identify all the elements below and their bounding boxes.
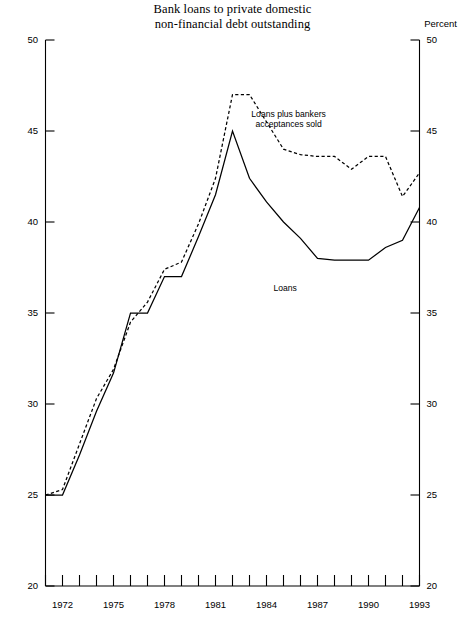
y-axis-label-left-35: 35 <box>16 308 38 318</box>
y-axis-label-left-30: 30 <box>16 399 38 409</box>
axes-group <box>46 40 420 586</box>
x-axis-label-1987: 1987 <box>300 600 336 610</box>
plot-canvas <box>0 0 465 624</box>
y-axis-label-right-30: 30 <box>427 399 449 409</box>
series-annotation-loans-plus-acceptances: Loans plus bankers acceptances sold <box>234 109 344 129</box>
x-axis-label-1993: 1993 <box>402 600 438 610</box>
y-axis-label-right-35: 35 <box>427 308 449 318</box>
x-axis-label-1981: 1981 <box>198 600 234 610</box>
y-axis-label-right-20: 20 <box>427 581 449 591</box>
y-axis-label-right-45: 45 <box>427 126 449 136</box>
series-line-0 <box>46 131 420 495</box>
series-group <box>46 95 420 495</box>
y-axis-label-right-50: 50 <box>427 35 449 45</box>
x-axis-label-1972: 1972 <box>45 600 81 610</box>
y-axis-label-left-40: 40 <box>16 217 38 227</box>
series-line-1 <box>46 95 420 495</box>
y-axis-label-left-45: 45 <box>16 126 38 136</box>
x-axis-label-1978: 1978 <box>147 600 183 610</box>
y-axis-label-left-50: 50 <box>16 35 38 45</box>
series-annotation-loans: Loans <box>245 283 325 293</box>
y-axis-label-left-25: 25 <box>16 490 38 500</box>
chart-root: Bank loans to private domestic non-finan… <box>0 0 465 624</box>
y-axis-label-right-40: 40 <box>427 217 449 227</box>
y-axis-label-left-20: 20 <box>16 581 38 591</box>
x-axis-label-1984: 1984 <box>249 600 285 610</box>
series-annotation-line-1: Loans plus bankers <box>251 109 326 119</box>
x-axis-label-1990: 1990 <box>351 600 387 610</box>
series-annotation-line-2: acceptances sold <box>255 119 321 129</box>
x-axis-label-1975: 1975 <box>96 600 132 610</box>
y-axis-label-right-25: 25 <box>427 490 449 500</box>
